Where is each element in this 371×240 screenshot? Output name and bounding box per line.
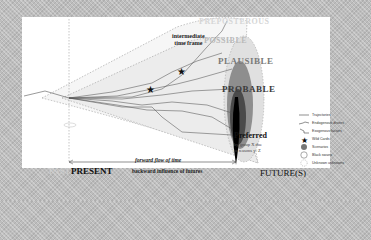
legend-item-wild-cards: ★ Wild Cards <box>298 135 348 143</box>
plausible-label: PLAUSIBLE <box>218 57 274 66</box>
eye-icon <box>64 123 76 127</box>
preferred-label: Preferred <box>234 132 267 140</box>
legend-label: Black swans <box>312 153 332 157</box>
legend-item-black-swans: Black swans <box>298 151 348 159</box>
past-label: PAST <box>49 167 70 176</box>
legend-item-unknown-unknowns: Unknown unknowns <box>298 159 348 167</box>
intermediate-time-frame-label: intermediate time frame <box>172 33 205 47</box>
diagram-panel: ★ ★ PREPOSTEROUS POSSIBLE PLAUSIBLE PROB… <box>22 17 330 168</box>
present-label: PRESENT <box>71 167 113 176</box>
preferred-sub-line-2: to reasons y+Z <box>234 148 262 154</box>
legend-item-trajectories: Trajectories <box>298 111 348 119</box>
legend-label: Endogenous drivers <box>312 121 344 125</box>
preferred-subtext: by group X due to reasons y+Z <box>234 142 262 153</box>
exogenous-factor-icon <box>298 127 310 135</box>
legend-item-scenarios: Scenarios <box>298 143 348 151</box>
legend-item-endogenous: Endogenous drivers <box>298 119 348 127</box>
futures-label: FUTURE(S) <box>260 169 306 178</box>
intermediate-line-2: time frame <box>172 40 205 47</box>
legend-label: Wild Cards <box>312 137 330 141</box>
possible-label: POSSIBLE <box>204 37 247 45</box>
legend-label: Trajectories <box>312 113 331 117</box>
legend-item-exogenous: Exogenous factors <box>298 127 348 135</box>
legend-label: Scenarios <box>312 145 328 149</box>
wild-card-star-icon: ★ <box>298 135 310 143</box>
trajectory-line-icon <box>298 111 310 119</box>
svg-text:★: ★ <box>301 136 308 144</box>
legend-label: Exogenous factors <box>312 129 342 133</box>
probable-label: PROBABLE <box>222 85 276 94</box>
unknown-unknown-dashed-circle-icon <box>298 159 310 167</box>
black-swan-circle-icon <box>298 151 310 159</box>
intermediate-line-1: intermediate <box>172 33 205 40</box>
endogenous-driver-icon <box>298 119 310 127</box>
forward-flow-label: forward flow of time <box>135 158 181 164</box>
preferred-sub-line-1: by group X due <box>234 142 262 148</box>
legend-label: Unknown unknowns <box>312 161 344 165</box>
wild-card-star-icon: ★ <box>177 66 186 77</box>
wild-card-star-icon: ★ <box>146 84 155 95</box>
scenario-dot-icon <box>298 143 310 151</box>
backward-influence-label: backward influence of futures <box>132 169 202 175</box>
preposterous-label: PREPOSTEROUS <box>199 18 269 26</box>
